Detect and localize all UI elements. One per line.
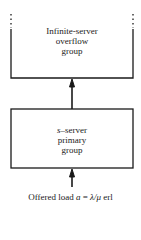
- server-suffix: –server: [61, 125, 88, 135]
- overflow-group-label: Infinite-server overflow group: [11, 26, 133, 56]
- arrow-primary-to-overflow: [70, 79, 75, 109]
- offered-load-formula: λ/μ: [90, 192, 101, 202]
- primary-group-label: s–server primary group: [11, 125, 133, 155]
- primary-label-line-1: s–server: [11, 125, 133, 135]
- overflow-label-line-3: group: [11, 46, 133, 56]
- offered-load-label: Offered load a = λ/μ erl: [0, 192, 141, 202]
- offered-load-unit: erl: [101, 192, 113, 202]
- offered-load-equals: =: [81, 192, 91, 202]
- primary-label-line-2: primary: [11, 135, 133, 145]
- arrowhead-icon: [70, 169, 75, 177]
- primary-label-line-3: group: [11, 145, 133, 155]
- offered-load-prefix: Offered load: [28, 192, 76, 202]
- arrowhead-icon: [70, 79, 75, 87]
- overflow-label-line-1: Infinite-server: [11, 26, 133, 36]
- overflow-label-line-2: overflow: [11, 36, 133, 46]
- arrow-load-to-primary: [70, 169, 75, 187]
